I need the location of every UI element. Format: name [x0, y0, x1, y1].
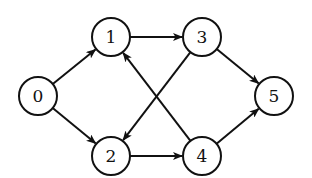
node-2: 2: [92, 137, 130, 175]
edge-0-to-1: [53, 50, 96, 84]
node-label: 3: [197, 27, 208, 47]
edge-4-to-5: [217, 109, 259, 144]
node-label: 1: [106, 27, 117, 47]
node-5: 5: [255, 77, 293, 115]
edge-3-to-5: [217, 49, 259, 83]
graph-diagram: 012345: [0, 0, 312, 178]
node-label: 2: [106, 146, 117, 166]
node-label: 4: [197, 146, 208, 166]
node-label: 5: [269, 86, 280, 106]
node-0: 0: [19, 77, 57, 115]
node-4: 4: [183, 137, 221, 175]
edge-0-to-2: [53, 108, 96, 143]
node-3: 3: [183, 18, 221, 56]
node-label: 0: [33, 86, 44, 106]
graph-canvas: 012345: [0, 0, 312, 178]
node-1: 1: [92, 18, 130, 56]
edges-layer: [53, 37, 259, 156]
